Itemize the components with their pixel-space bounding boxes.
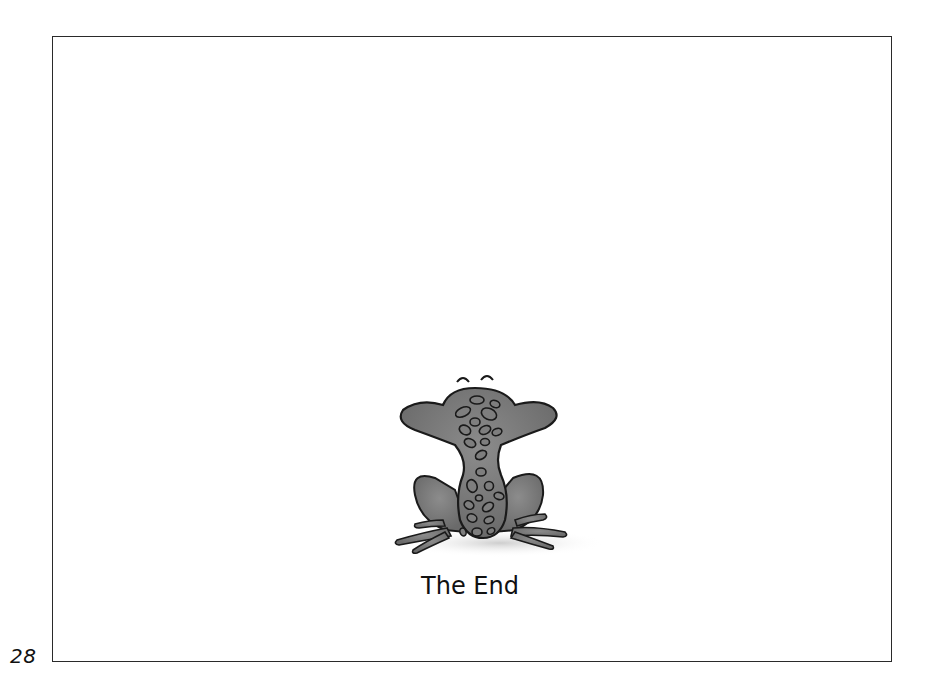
right-eye-icon: [481, 376, 493, 380]
the-end-caption: The End: [0, 572, 940, 600]
page-number: 28: [10, 644, 36, 668]
left-eye-icon: [457, 378, 469, 382]
frog-illustration: [375, 360, 605, 560]
page-frame: [52, 36, 892, 662]
